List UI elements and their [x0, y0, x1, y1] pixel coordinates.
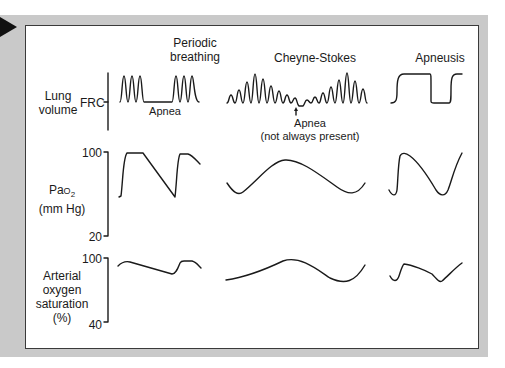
- cheyne-stokes-sao2-trace: [226, 260, 365, 282]
- apneusis-sao2-trace: [390, 263, 462, 281]
- apneusis-pao2-trace: [389, 153, 462, 195]
- waveform-drawing: [0, 0, 505, 368]
- cheyne-stokes-lung-volume-trace: [227, 73, 367, 106]
- periodic-sao2-trace: [118, 261, 201, 274]
- apneusis-lung-volume-trace: [391, 74, 462, 103]
- periodic-lung-volume-trace: [120, 76, 199, 102]
- apnea-pointer-arrow-icon: [294, 107, 298, 115]
- sao2-axis: [104, 258, 108, 322]
- periodic-pao2-trace: [119, 153, 200, 197]
- cheyne-stokes-pao2-trace: [227, 160, 365, 194]
- pao2-axis: [104, 152, 108, 236]
- lung-volume-axis: [104, 73, 108, 130]
